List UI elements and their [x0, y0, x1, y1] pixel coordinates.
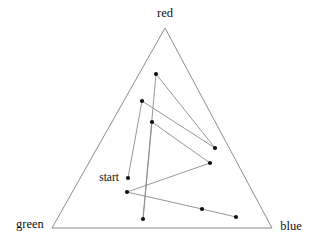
label-red: red — [157, 6, 174, 20]
ternary-plot-canvas: redgreenbluestart — [0, 0, 316, 241]
data-point[interactable] — [200, 207, 204, 211]
data-point[interactable] — [154, 72, 158, 76]
data-point[interactable] — [208, 161, 212, 165]
data-point[interactable] — [140, 99, 144, 103]
ternary-triangle-outline — [52, 28, 272, 228]
data-point[interactable] — [213, 146, 217, 150]
data-point[interactable] — [125, 190, 129, 194]
ternary-plot: redgreenbluestart — [0, 0, 316, 241]
trajectory-polyline — [127, 74, 236, 219]
data-point-start[interactable] — [126, 176, 130, 180]
data-point[interactable] — [150, 120, 154, 124]
data-point-markers — [125, 72, 238, 221]
label-blue: blue — [280, 219, 302, 233]
label-green: green — [16, 217, 45, 231]
data-point[interactable] — [141, 217, 145, 221]
label-start: start — [99, 171, 120, 183]
data-point[interactable] — [234, 215, 238, 219]
